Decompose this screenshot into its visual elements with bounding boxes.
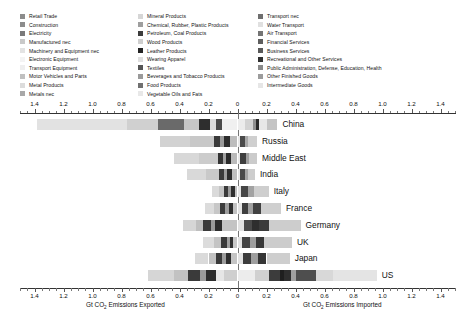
axis-minor-tick [56, 288, 57, 291]
top-axis-tick-label: 0.6 [139, 100, 163, 107]
x-axis-title-imported: Gt CO2 Emissions Imported [303, 301, 382, 310]
axis-minor-tick [339, 288, 340, 291]
bar-category-label: Middle East [262, 153, 306, 164]
axis-major-tick [122, 109, 123, 113]
axis-minor-tick [27, 111, 28, 114]
bar-segment-import [269, 270, 280, 281]
axis-major-tick [441, 109, 442, 113]
axis-minor-tick [317, 111, 318, 114]
top-axis-tick-label: 0.2 [255, 100, 279, 107]
axis-minor-tick [42, 288, 43, 291]
axis-minor-tick [281, 111, 282, 114]
axis-minor-tick [404, 111, 405, 114]
axis-minor-tick [56, 111, 57, 114]
axis-minor-tick [78, 288, 79, 291]
axis-minor-tick [332, 288, 333, 291]
chart-bar-row[interactable]: France [0, 203, 474, 214]
axis-minor-tick [274, 111, 275, 114]
bottom-axis-tick-label: 0.8 [342, 292, 366, 299]
axis-minor-tick [317, 288, 318, 291]
bar-segment-import [264, 237, 292, 248]
axis-major-tick [325, 109, 326, 113]
chart-bar-row[interactable]: Japan [0, 253, 474, 264]
axis-minor-tick [252, 111, 253, 114]
axis-minor-tick [114, 288, 115, 291]
top-axis-tick-label: 1.4 [23, 100, 47, 107]
bar-segment-export [210, 119, 217, 130]
axis-minor-tick [259, 111, 260, 114]
axis-minor-tick [158, 111, 159, 114]
top-axis-tick-label: 0.8 [110, 100, 134, 107]
axis-minor-tick [216, 288, 217, 291]
top-axis-tick-label: 0.8 [342, 100, 366, 107]
axis-minor-tick [252, 288, 253, 291]
chart-bar-row[interactable]: India [0, 169, 474, 180]
top-axis-tick-label: 1.4 [429, 100, 453, 107]
chart-bar-row[interactable]: Middle East [0, 153, 474, 164]
bar-segment-export [215, 220, 222, 231]
chart-bar-row[interactable]: Russia [0, 136, 474, 147]
bottom-axis-tick-label: 0.2 [197, 292, 221, 299]
axis-minor-tick [274, 288, 275, 291]
axis-major-tick [267, 109, 268, 113]
axis-minor-tick [114, 111, 115, 114]
bottom-axis-tick-label: 1.2 [400, 292, 424, 299]
top-axis-tick-label: 0.4 [168, 100, 192, 107]
bar-category-label: India [260, 169, 278, 180]
axis-minor-tick [129, 288, 130, 291]
axis-minor-tick [49, 111, 50, 114]
top-axis-tick-label: 1.2 [400, 100, 424, 107]
bar-segment-import [259, 119, 267, 130]
bar-segment-export [222, 220, 238, 231]
bar-segment-export [174, 270, 188, 281]
axis-minor-tick [165, 288, 166, 291]
axis-minor-tick [172, 288, 173, 291]
subscript-two: 2 [321, 305, 324, 310]
bar-segment-export [222, 119, 238, 130]
axis-minor-tick [143, 288, 144, 291]
axis-minor-tick [172, 111, 173, 114]
axis-minor-tick [71, 111, 72, 114]
axis-minor-tick [281, 288, 282, 291]
bottom-axis-tick-label: 1.4 [23, 292, 47, 299]
axis-minor-tick [390, 288, 391, 291]
bottom-axis-tick-label: 1.2 [52, 292, 76, 299]
axis-minor-tick [194, 111, 195, 114]
bar-segment-export [148, 270, 175, 281]
axis-minor-tick [187, 288, 188, 291]
bar-segment-export [183, 220, 196, 231]
chart-bar-row[interactable]: Italy [0, 186, 474, 197]
axis-minor-tick [288, 111, 289, 114]
bar-category-label: US [382, 270, 394, 281]
bar-segment-import [296, 270, 316, 281]
axis-minor-tick [143, 111, 144, 114]
bar-category-label: Germany [306, 220, 340, 231]
axis-minor-tick [288, 288, 289, 291]
top-axis-tick-label: 1.0 [371, 100, 395, 107]
bar-segment-import [269, 220, 301, 231]
bar-segment-import [238, 270, 255, 281]
axis-minor-tick [397, 288, 398, 291]
axis-major-tick [354, 109, 355, 113]
chart-bar-row[interactable]: UK [0, 237, 474, 248]
axis-minor-tick [448, 288, 449, 291]
bottom-axis-tick-label: 0 [226, 292, 250, 299]
bar-category-label: Italy [274, 186, 289, 197]
chart-bar-row[interactable]: Germany [0, 220, 474, 231]
bottom-axis-tick-label: 0.4 [168, 292, 192, 299]
bar-segment-import [248, 136, 257, 147]
top-axis-tick-label: 0.6 [313, 100, 337, 107]
x-axis-title-exported: Gt CO2 Emissions Exported [86, 301, 165, 310]
axis-minor-tick [165, 111, 166, 114]
bar-segment-export [37, 119, 127, 130]
axis-minor-tick [397, 111, 398, 114]
axis-minor-tick [346, 111, 347, 114]
bar-segment-export [190, 136, 214, 147]
bar-segment-import [316, 270, 333, 281]
chart-bar-row[interactable]: US [0, 270, 474, 281]
axis-major-tick [412, 109, 413, 113]
axis-minor-tick [20, 288, 21, 291]
axis-major-tick [151, 109, 152, 113]
chart-bar-row[interactable]: China [0, 119, 474, 130]
bar-segment-import [253, 203, 260, 214]
